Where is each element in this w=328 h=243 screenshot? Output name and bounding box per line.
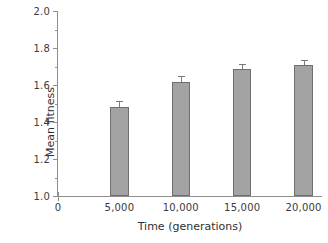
x-tick-label: 5,000: [105, 202, 135, 213]
y-tick-mark: [53, 122, 58, 123]
y-tick-mark: [53, 159, 58, 160]
y-tick-mark: [53, 48, 58, 49]
x-axis-title: Time (generations): [58, 220, 322, 233]
bar: [233, 69, 251, 196]
error-bar-cap: [239, 64, 246, 65]
bar: [110, 107, 128, 196]
error-bar-cap: [301, 60, 308, 61]
y-tick-label: 1.8: [33, 43, 50, 54]
x-axis-line: [57, 196, 322, 197]
x-tick-label: 15,000: [224, 202, 260, 213]
error-bar-cap: [116, 101, 123, 102]
x-tick-mark: [58, 192, 59, 201]
y-minor-tick-mark: [55, 30, 58, 31]
y-tick-label: 2.0: [33, 6, 50, 17]
y-tick-mark: [53, 11, 58, 12]
y-tick-mark: [53, 85, 58, 86]
error-bar-cap: [178, 76, 185, 77]
bar: [294, 65, 312, 196]
y-tick-label: 1.4: [33, 117, 50, 128]
y-tick-label: 1.6: [33, 80, 50, 91]
y-minor-tick-mark: [55, 178, 58, 179]
y-minor-tick-mark: [55, 141, 58, 142]
x-tick-label: 10,000: [163, 202, 199, 213]
x-tick-label: 0: [55, 202, 62, 213]
x-tick-label: 20,000: [285, 202, 321, 213]
y-minor-tick-mark: [55, 104, 58, 105]
bar: [172, 82, 190, 196]
y-minor-tick-mark: [55, 67, 58, 68]
y-tick-label: 1.0: [33, 191, 50, 202]
y-tick-label: 1.2: [33, 154, 50, 165]
plot-area: 1.01.21.41.61.82.0: [58, 11, 322, 196]
bar-chart-figure: Mean fitness 1.01.21.41.61.82.0 05,00010…: [0, 0, 328, 243]
